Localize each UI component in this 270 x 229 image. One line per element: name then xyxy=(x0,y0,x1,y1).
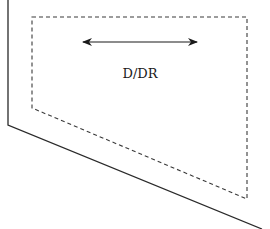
region-label: D/DR xyxy=(122,66,158,81)
diagram-canvas: D/DR xyxy=(0,0,270,229)
solid-boundary-line xyxy=(8,0,262,229)
dashed-region-outline xyxy=(32,17,247,199)
